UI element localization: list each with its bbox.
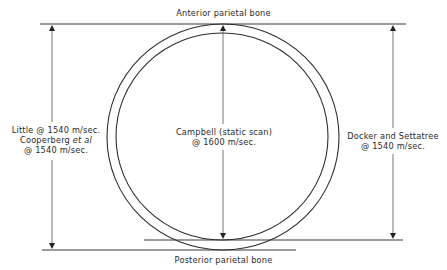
little-velocity-text: Little @ 1540 m/sec. [8,125,104,135]
cooperberg-name: Cooperberg [20,135,70,145]
docker-name-text: Docker and Settatree [345,131,441,141]
campbell-name-text: Campbell (static scan) [168,127,280,137]
posterior-parietal-label: Posterior parietal bone [0,255,447,265]
little-cooperberg-label: Little @ 1540 m/sec. Cooperberg et al @ … [8,125,104,155]
campbell-velocity-text: @ 1600 m/sec. [168,137,280,147]
cooperberg-velocity-text: @ 1540 m/sec. [8,145,104,155]
docker-velocity-text: @ 1540 m/sec. [345,141,441,151]
anterior-parietal-label: Anterior parietal bone [0,8,447,18]
docker-settatree-label: Docker and Settatree @ 1540 m/sec. [345,131,441,151]
cooperberg-text: Cooperberg et al [8,135,104,145]
campbell-label: Campbell (static scan) @ 1600 m/sec. [168,127,280,147]
et-al-text: et al [73,135,92,145]
